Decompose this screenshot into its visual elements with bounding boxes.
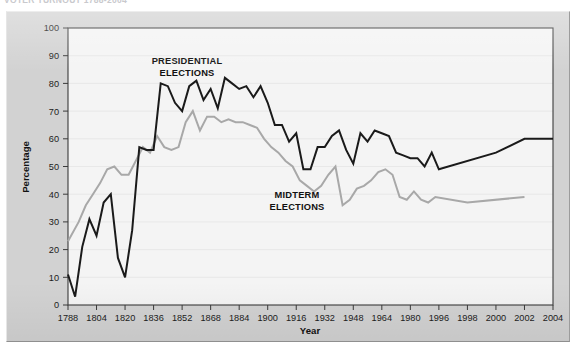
presidential-label-line-2: ELECTIONS: [159, 68, 214, 78]
x-tick-label-1980: 1980: [400, 313, 420, 323]
figure-frame: 0102030405060708090100 17881804182018361…: [6, 11, 570, 342]
x-tick-label-2000: 2000: [486, 313, 506, 323]
x-tick-label-1788: 1788: [58, 313, 78, 323]
clipped-caption-strip: VOTER TURNOUT 1788-2004: [0, 0, 576, 11]
y-tick-label-0: 0: [54, 300, 59, 310]
y-tick-label-20: 20: [49, 245, 59, 255]
midterm-label: MIDTERMELECTIONS: [269, 190, 324, 212]
voter-turnout-line-chart: 0102030405060708090100 17881804182018361…: [7, 12, 571, 343]
x-axis-title: Year: [300, 325, 321, 336]
x-tick-label-1900: 1900: [257, 313, 277, 323]
x-tick-label-1998: 1998: [457, 313, 477, 323]
x-tick-label-1884: 1884: [229, 313, 249, 323]
x-tick-label-1820: 1820: [115, 313, 135, 323]
y-tick-label-80: 80: [49, 79, 59, 89]
y-tick-label-60: 60: [49, 134, 59, 144]
presidential-label: PRESIDENTIALELECTIONS: [152, 56, 223, 78]
y-axis-title: Percentage: [20, 141, 31, 193]
y-axis: 0102030405060708090100: [44, 23, 68, 310]
x-tick-label-2004: 2004: [543, 313, 563, 323]
y-tick-label-10: 10: [49, 273, 59, 283]
midterm-label-line-1: MIDTERM: [275, 190, 320, 200]
y-tick-label-50: 50: [49, 162, 59, 172]
clipped-caption-text: VOTER TURNOUT 1788-2004: [4, 0, 127, 5]
y-tick-label-40: 40: [49, 190, 59, 200]
x-axis: 1788180418201836185218681884190019161932…: [58, 305, 563, 323]
x-tick-label-1916: 1916: [286, 313, 306, 323]
y-tick-label-70: 70: [49, 107, 59, 117]
x-tick-label-1868: 1868: [200, 313, 220, 323]
x-tick-label-1852: 1852: [172, 313, 192, 323]
y-tick-label-30: 30: [49, 217, 59, 227]
presidential-label-line-1: PRESIDENTIAL: [152, 56, 223, 66]
y-tick-label-100: 100: [44, 23, 59, 33]
x-tick-label-1804: 1804: [86, 313, 106, 323]
x-tick-label-1932: 1932: [315, 313, 335, 323]
y-tick-label-90: 90: [49, 51, 59, 61]
midterm-label-line-2: ELECTIONS: [269, 202, 324, 212]
x-tick-label-1964: 1964: [372, 313, 392, 323]
x-tick-label-2002: 2002: [514, 313, 534, 323]
x-tick-label-1996: 1996: [429, 313, 449, 323]
x-tick-label-1948: 1948: [343, 313, 363, 323]
x-tick-label-1836: 1836: [143, 313, 163, 323]
